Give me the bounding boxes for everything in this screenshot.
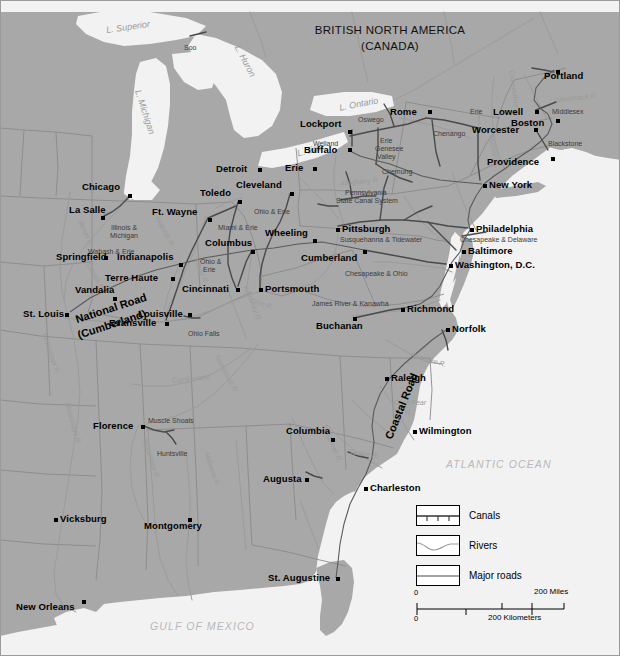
city-marker-dot (428, 110, 432, 114)
city-marker-dot (251, 250, 255, 254)
city-marker-dot (401, 308, 405, 312)
map-scalebar: 0 200 Miles 0 200 Kilometers (414, 588, 610, 622)
city-marker-dot (236, 288, 240, 292)
city-marker-dot (258, 168, 262, 172)
city-marker-dot (65, 313, 69, 317)
legend-label-roads: Major roads (469, 570, 522, 581)
scale-km-end: 200 Kilometers (488, 613, 541, 622)
canal-swatch-icon (416, 505, 460, 526)
city-marker-dot (449, 264, 453, 268)
city-marker-dot (470, 228, 474, 232)
city-marker-dot (188, 313, 192, 317)
city-marker-dot (290, 192, 294, 196)
legend-row-roads: Major roads (416, 565, 522, 586)
city-marker-dot (165, 322, 169, 326)
city-marker-dot (113, 297, 117, 301)
city-marker-dot (128, 194, 132, 198)
city-marker-dot (101, 216, 105, 220)
road-swatch-icon (416, 565, 460, 586)
legend-label-rivers: Rivers (469, 540, 497, 551)
historical-map: BRITISH NORTH AMERICA (CANADA) L. Superi… (0, 0, 620, 656)
city-marker-dot (238, 200, 242, 204)
river-swatch-icon (416, 535, 460, 556)
city-marker-dot (141, 425, 145, 429)
city-marker-dot (54, 518, 58, 522)
city-marker-dot (259, 288, 263, 292)
scale-miles-end: 200 Miles (534, 587, 568, 596)
legend-row-canals: Canals (416, 505, 522, 526)
map-canvas (0, 0, 620, 656)
legend-row-rivers: Rivers (416, 535, 522, 556)
legend-label-canals: Canals (469, 510, 500, 521)
city-marker-dot (188, 518, 192, 522)
city-marker-dot (462, 250, 466, 254)
city-marker-dot (353, 317, 357, 321)
city-marker-dot (179, 263, 183, 267)
city-marker-dot (82, 600, 86, 604)
city-marker-dot (385, 377, 389, 381)
city-marker-dot (556, 70, 560, 74)
city-marker-dot (483, 184, 487, 188)
city-marker-dot (305, 478, 309, 482)
city-marker-dot (104, 256, 108, 260)
city-marker-dot (364, 487, 368, 491)
city-marker-dot (171, 277, 175, 281)
city-marker-dot (551, 157, 555, 161)
city-marker-dot (413, 430, 417, 434)
city-marker-dot (534, 128, 538, 132)
city-marker-dot (313, 239, 317, 243)
city-marker-dot (446, 328, 450, 332)
map-legend: Canals Rivers Major roads (416, 505, 522, 595)
city-marker-dot (556, 119, 560, 123)
city-marker-dot (348, 148, 352, 152)
city-marker-dot (535, 110, 539, 114)
city-marker-dot (336, 577, 340, 581)
scale-miles-start: 0 (414, 588, 418, 597)
city-marker-dot (363, 250, 367, 254)
scale-km-start: 0 (414, 614, 418, 623)
city-marker-dot (331, 438, 335, 442)
city-marker-dot (208, 218, 212, 222)
city-marker-dot (313, 167, 317, 171)
city-marker-dot (336, 228, 340, 232)
city-marker-dot (348, 130, 352, 134)
